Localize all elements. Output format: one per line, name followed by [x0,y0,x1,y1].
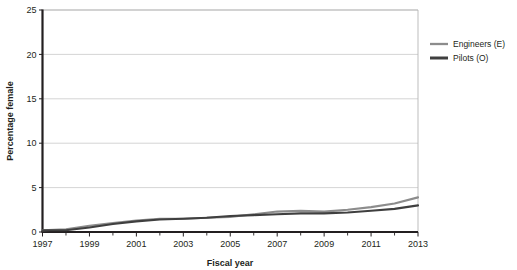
legend-label-2: Pilots (O) [453,53,489,63]
x-axis-title: Fiscal year [207,258,254,268]
chart-container: 0510152025 19971999200120032005200720092… [0,0,517,270]
x-tick-label: 2013 [408,239,428,249]
x-tick-label: 2007 [267,239,287,249]
x-tick-label: 2011 [361,239,380,249]
y-axis-title: Percentage female [5,81,15,161]
y-tick-label: 0 [31,227,36,237]
y-tick-label: 25 [26,5,36,15]
x-tick-label: 2001 [126,239,146,249]
y-tick-label: 10 [26,138,36,148]
line-chart: 0510152025 19971999200120032005200720092… [0,0,517,270]
x-tick-label: 2009 [314,239,334,249]
x-tick-label: 1999 [79,239,99,249]
x-tick-label: 1997 [32,239,52,249]
y-tick-label: 15 [26,94,36,104]
x-tick-label: 2003 [173,239,193,249]
x-tick-label: 2005 [220,239,240,249]
y-tick-label: 5 [31,183,36,193]
x-axis-tick-labels: 199719992001200320052007200920112013 [32,239,428,249]
y-tick-label: 20 [26,50,36,60]
legend-label-1: Engineers (E) [453,39,505,49]
